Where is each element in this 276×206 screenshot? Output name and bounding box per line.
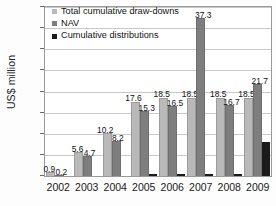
bar-value-label: 37.3 <box>195 11 211 19</box>
bar-nav: 16.7 <box>225 105 234 176</box>
bar-group: 18.521.7 <box>243 7 271 176</box>
x-axis-tick-label: 2002 <box>44 181 73 193</box>
legend-label: Cumulative distributions <box>61 31 159 40</box>
bar-nav: 4.7 <box>83 156 92 176</box>
bar-nav: 15.3 <box>140 111 149 176</box>
bar-value-label: 10.2 <box>97 126 113 134</box>
legend-item: Cumulative distributions <box>52 31 179 40</box>
bar-cumulative-distributions <box>149 174 157 176</box>
bar-value-label: 16.7 <box>223 98 239 106</box>
bar-total-cumulative-draw-downs: 0.9 <box>46 172 55 176</box>
bar-nav: 16.5 <box>168 106 177 176</box>
bar-nav: 37.3 <box>196 18 205 176</box>
bar-total-cumulative-draw-downs: 5.6 <box>74 152 83 176</box>
bar-total-cumulative-draw-downs: 18.5 <box>216 98 225 176</box>
x-axis-tick-label: 2009 <box>244 181 273 193</box>
bar-value-label: 8.2 <box>112 134 124 142</box>
bar-value-label: 21.7 <box>252 77 268 85</box>
bar-value-label: 17.6 <box>125 94 141 102</box>
bar-chart: US$ million 0510152025303540 0.90.25.64.… <box>0 0 276 206</box>
y-axis-title: US$ million <box>5 42 17 122</box>
bar-total-cumulative-draw-downs: 18.5 <box>159 98 168 176</box>
bar-value-label: 0.9 <box>43 165 55 173</box>
legend-swatch-icon <box>52 21 57 26</box>
bar-cumulative-distributions <box>177 174 185 176</box>
legend-item: NAV <box>52 19 179 28</box>
bar-nav: 0.2 <box>55 175 64 176</box>
x-axis-tick-label: 2007 <box>187 181 216 193</box>
bar-value-label: 15.3 <box>139 104 155 112</box>
bar-value-label: 4.7 <box>84 149 96 157</box>
x-axis-tick-label: 2005 <box>130 181 159 193</box>
legend-item: Total cumulative draw-downs <box>52 7 179 16</box>
bar-nav: 8.2 <box>112 141 121 176</box>
legend-label: Total cumulative draw-downs <box>61 7 179 16</box>
bar-value-label: 16.5 <box>167 99 183 107</box>
legend-swatch-icon <box>52 9 57 14</box>
x-axis-tick-label: 2003 <box>73 181 102 193</box>
bar-value-label: 0.2 <box>55 168 67 176</box>
x-axis-tick-label: 2006 <box>158 181 187 193</box>
bar-value-label: 5.6 <box>72 145 84 153</box>
bar-nav: 21.7 <box>253 84 262 176</box>
legend-label: NAV <box>61 19 79 28</box>
bar-total-cumulative-draw-downs: 10.2 <box>103 133 112 176</box>
x-axis-labels: 20022003200420052006200720082009 <box>44 181 272 193</box>
x-axis-tick-label: 2004 <box>101 181 130 193</box>
x-axis-tick-label: 2008 <box>215 181 244 193</box>
bar-cumulative-distributions <box>234 174 242 176</box>
bar-total-cumulative-draw-downs: 18.5 <box>244 98 253 176</box>
bar-total-cumulative-draw-downs: 18.5 <box>187 98 196 176</box>
legend-swatch-icon <box>52 34 57 39</box>
bar-cumulative-distributions <box>262 142 270 176</box>
bar-cumulative-distributions <box>205 174 213 176</box>
chart-legend: Total cumulative draw-downsNAVCumulative… <box>52 7 179 41</box>
